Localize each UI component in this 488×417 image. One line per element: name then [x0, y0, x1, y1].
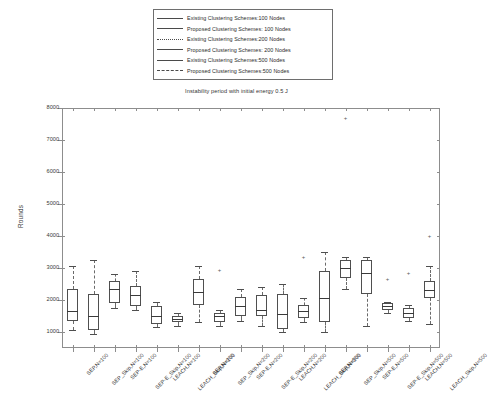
x-axis-tick-top [304, 108, 305, 111]
box-whisker-cap-lower [195, 322, 202, 323]
box-whisker-cap-upper [300, 298, 307, 299]
box-whisker-lower [73, 321, 74, 331]
legend-item[interactable]: Existing Clustering Schemes:200 Nodes [157, 34, 328, 45]
legend-line-swatch [157, 18, 183, 19]
y-axis-tick-label: 2000 [47, 296, 59, 302]
box-plot-box[interactable] [277, 294, 289, 329]
box-median-line [151, 316, 163, 317]
box-outlier-marker: + [386, 276, 390, 282]
x-axis-tick-top [157, 108, 158, 111]
box-whisker-lower [262, 316, 263, 326]
box-outlier-marker: + [407, 270, 411, 276]
box-plot-box[interactable] [88, 294, 100, 331]
box-whisker-cap-lower [321, 332, 328, 333]
box-whisker-lower [199, 305, 200, 323]
box-whisker-cap-lower [174, 326, 181, 327]
box-whisker-cap-lower [426, 324, 433, 325]
y-axis-label: Rounds [17, 205, 24, 228]
y-axis-tick-inner [62, 140, 65, 141]
y-axis-tick-right [437, 332, 440, 333]
y-axis-tick-right [437, 108, 440, 109]
box-whisker-cap-upper [90, 260, 97, 261]
box-plot-box[interactable] [109, 281, 121, 303]
box-median-line [172, 319, 184, 320]
box-whisker-cap-lower [279, 332, 286, 333]
x-axis-tick-top [409, 108, 410, 111]
legend-item[interactable]: Proposed Clustering Schemes: 100 Nodes [157, 24, 328, 35]
box-whisker-upper [262, 287, 263, 295]
plot-area: 10002000300040005000600070008000++++++ [62, 108, 440, 348]
legend-item[interactable]: Existing Clustering Schemes:500 Nodes [157, 55, 328, 66]
legend-item[interactable]: Proposed Clustering Schemes: 200 Nodes [157, 45, 328, 56]
legend-line-swatch [157, 60, 183, 61]
y-axis-tick-label: 1000 [47, 328, 59, 334]
legend-item[interactable]: Existing Clustering Schemes:100 Nodes [157, 13, 328, 24]
box-whisker-upper [325, 252, 326, 271]
legend-line-swatch [157, 49, 183, 50]
x-axis-tick-top [388, 108, 389, 111]
box-whisker-cap-lower [90, 334, 97, 335]
x-axis-tick-label: SEP,N=200 [211, 352, 235, 376]
y-axis-tick-label: 6000 [47, 168, 59, 174]
box-whisker-cap-lower [153, 327, 160, 328]
box-median-line [109, 289, 121, 290]
box-median-line [298, 311, 310, 312]
box-median-line [403, 313, 415, 314]
y-axis-tick-right [437, 300, 440, 301]
box-whisker-cap-upper [279, 284, 286, 285]
x-axis-tick-top [220, 108, 221, 111]
box-plot-box[interactable] [67, 289, 79, 321]
box-whisker-cap-upper [216, 310, 223, 311]
box-plot-box[interactable] [361, 260, 373, 294]
legend-line-swatch [157, 70, 183, 71]
y-axis-tick-label: 5000 [47, 200, 59, 206]
chart-legend: Existing Clustering Schemes:100 NodesPro… [153, 9, 333, 80]
x-axis-tick-top [262, 108, 263, 111]
box-whisker-upper [136, 271, 137, 285]
y-axis-tick-inner [62, 300, 65, 301]
box-plot-box[interactable] [319, 271, 331, 322]
chart-title: Instability period with initial energy 0… [0, 88, 473, 94]
box-median-line [277, 314, 289, 315]
box-whisker-cap-upper [363, 257, 370, 258]
x-axis-tick-top [178, 108, 179, 111]
legend-line-swatch [157, 28, 183, 29]
box-outlier-marker: + [344, 115, 348, 121]
x-axis-tick-top [73, 108, 74, 111]
y-axis-tick-right [437, 172, 440, 173]
box-median-line [193, 292, 205, 293]
box-whisker-upper [73, 266, 74, 288]
legend-line-swatch [157, 39, 183, 40]
box-median-line [214, 316, 226, 317]
box-whisker-cap-lower [342, 289, 349, 290]
box-outlier-marker: + [218, 267, 222, 273]
box-median-line [256, 310, 268, 311]
box-whisker-upper [430, 266, 431, 280]
box-plot-box[interactable] [214, 313, 226, 323]
box-whisker-cap-lower [363, 326, 370, 327]
x-axis-tick-top [367, 108, 368, 111]
box-median-line [130, 295, 142, 296]
box-whisker-cap-upper [405, 305, 412, 306]
box-median-line [319, 298, 331, 299]
box-median-line [424, 290, 436, 291]
legend-item[interactable]: Proposed Clustering Schemes:500 Nodes [157, 66, 328, 77]
box-whisker-cap-lower [216, 326, 223, 327]
box-whisker-upper [199, 266, 200, 279]
box-whisker-lower [346, 278, 347, 289]
legend-item-label: Existing Clustering Schemes:100 Nodes [187, 14, 285, 22]
y-axis-tick-right [437, 236, 440, 237]
legend-item-label: Existing Clustering Schemes:200 Nodes [187, 35, 285, 43]
x-axis-tick-top [346, 108, 347, 111]
y-axis-tick-inner [62, 172, 65, 173]
y-axis-tick-label: 7000 [47, 136, 59, 142]
box-whisker-upper [241, 289, 242, 297]
x-axis-tick-top [94, 108, 95, 111]
box-plot-box[interactable] [256, 295, 268, 316]
y-axis-tick-inner [62, 236, 65, 237]
box-whisker-upper [283, 284, 284, 294]
y-axis-tick-right [437, 268, 440, 269]
legend-item-label: Proposed Clustering Schemes:500 Nodes [187, 67, 289, 75]
box-whisker-cap-upper [426, 266, 433, 267]
box-whisker-cap-upper [195, 266, 202, 267]
